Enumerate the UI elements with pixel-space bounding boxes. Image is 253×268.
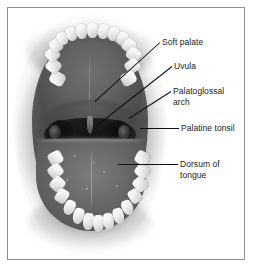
upper-tooth-7 — [87, 23, 98, 38]
label-dorsum-of-tongue-line-0: Dorsum of — [180, 159, 220, 170]
label-palatoglossal-arch: Palatoglossalarch — [173, 86, 224, 107]
label-soft-palate: Soft palate — [162, 37, 203, 48]
palatine-tonsil-left — [49, 125, 61, 139]
label-uvula-line-0: Uvula — [174, 61, 196, 72]
figure-container: Soft palateUvulaPalatoglossalarchPalatin… — [0, 0, 253, 268]
leader-line-palatine-tonsil — [140, 128, 179, 129]
label-palatoglossal-arch-line-1: arch — [173, 97, 224, 108]
label-palatoglossal-arch-line-0: Palatoglossal — [173, 86, 224, 97]
label-soft-palate-line-0: Soft palate — [162, 37, 203, 48]
palatine-tonsil-right — [118, 125, 130, 139]
leader-line-dorsum-of-tongue — [118, 164, 178, 165]
label-palatine-tonsil: Palatine tonsil — [181, 123, 235, 134]
label-dorsum-of-tongue: Dorsum oftongue — [180, 159, 220, 180]
label-dorsum-of-tongue-line-1: tongue — [180, 170, 220, 181]
label-palatine-tonsil-line-0: Palatine tonsil — [181, 123, 235, 134]
oral-cavity-photograph — [8, 8, 244, 259]
tongue-edge — [36, 138, 146, 143]
label-uvula: Uvula — [174, 61, 196, 72]
